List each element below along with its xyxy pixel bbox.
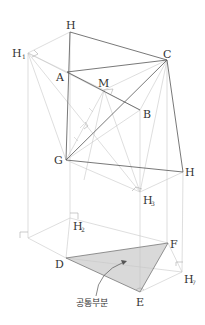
common-part-label: 공통부분 <box>76 298 108 308</box>
label-F: F <box>170 238 178 251</box>
label-H1-sub: 1 <box>22 53 26 60</box>
label-H2-sub: 2 <box>81 226 85 233</box>
label-D: D <box>55 258 64 271</box>
label-A: A <box>55 71 65 84</box>
label-M: M <box>98 77 109 90</box>
label-C: C <box>163 48 171 61</box>
label-H1: H <box>12 47 22 60</box>
label-H-top: H <box>66 19 76 32</box>
label-H-right: H <box>185 166 195 179</box>
geometry-diagram: H H 1 C A M B G H H 3 H 2 D F E H 7 공통부분 <box>0 0 205 325</box>
label-G: G <box>54 154 63 167</box>
label-H7-sub: 7 <box>192 279 196 286</box>
label-H3-sub: 3 <box>151 200 155 207</box>
label-E: E <box>136 296 144 309</box>
label-B: B <box>143 108 151 121</box>
